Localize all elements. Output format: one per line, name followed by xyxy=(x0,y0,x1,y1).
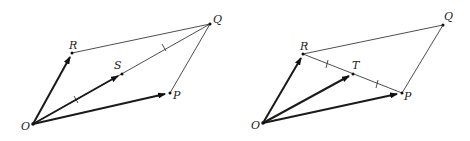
segment-RQ xyxy=(303,25,443,54)
label-Q: Q xyxy=(213,13,222,26)
point-P xyxy=(169,92,172,95)
label-Q: Q xyxy=(444,10,453,23)
label-R: R xyxy=(299,40,308,53)
equal-mark-2 xyxy=(376,80,378,88)
segment-PQ xyxy=(402,25,443,93)
label-O: O xyxy=(21,120,30,133)
point-O xyxy=(31,122,35,126)
vector-OP xyxy=(263,94,397,123)
point-S xyxy=(121,73,124,76)
point-T xyxy=(352,73,355,76)
label-P: P xyxy=(172,89,181,102)
label-P: P xyxy=(403,90,412,103)
vector-diagrams: O R S P Q O R T P Q xyxy=(0,0,470,141)
label-T: T xyxy=(352,59,361,72)
segment-RQ xyxy=(72,24,210,53)
point-Q xyxy=(209,23,212,26)
label-R: R xyxy=(68,39,77,52)
point-Q xyxy=(442,24,445,27)
label-S: S xyxy=(114,59,122,72)
vector-OP xyxy=(33,94,165,124)
point-O xyxy=(261,121,265,125)
left-figure: O R S P Q xyxy=(21,13,222,133)
label-O: O xyxy=(251,119,260,132)
right-figure: O R T P Q xyxy=(251,10,453,132)
segment-PQ xyxy=(170,24,210,93)
